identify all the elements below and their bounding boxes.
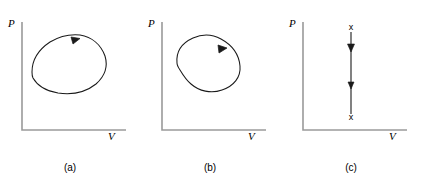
panel-a: P V (a) <box>0 0 140 186</box>
panel-a-plot <box>0 0 140 160</box>
direction-arrow-c-lower <box>348 82 354 89</box>
panel-c-plot: x x <box>281 0 421 160</box>
axes-b <box>162 22 266 130</box>
pv-diagram-figure: P V (a) P V (b) x x P V (c) <box>0 0 421 186</box>
direction-arrow-b <box>218 45 227 53</box>
x-axis-label-b: V <box>248 131 255 142</box>
cycle-loop-b <box>177 35 240 92</box>
endpoint-marker-top: x <box>349 22 354 32</box>
panel-b-plot <box>140 0 280 160</box>
endpoint-marker-bottom: x <box>349 112 354 122</box>
x-axis-label-c: V <box>389 131 396 142</box>
direction-arrow-c-upper <box>348 44 355 52</box>
y-axis-label-b: P <box>148 18 155 29</box>
y-axis-label-c: P <box>289 18 296 29</box>
panel-c: x x P V (c) <box>281 0 421 186</box>
caption-a: (a) <box>0 163 140 173</box>
axes-c <box>303 22 407 130</box>
x-axis-label-a: V <box>108 131 115 142</box>
caption-b: (b) <box>140 163 280 173</box>
panel-b: P V (b) <box>140 0 280 186</box>
cycle-loop-a <box>32 35 106 94</box>
direction-arrow-a <box>71 37 80 44</box>
caption-c: (c) <box>281 163 421 173</box>
y-axis-label-a: P <box>8 18 15 29</box>
